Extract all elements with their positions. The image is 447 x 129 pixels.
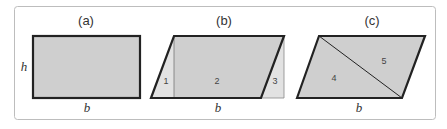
panel-a-label: (a) bbox=[78, 13, 94, 28]
height-label: h bbox=[21, 59, 28, 74]
region-1-label: 1 bbox=[163, 76, 168, 86]
panel-b-label: (b) bbox=[216, 13, 232, 28]
base-label-a: b bbox=[84, 100, 91, 115]
area-diagram: (a) h b (b) 1 2 3 b (c) 4 5 b bbox=[0, 0, 447, 129]
region-3-label: 3 bbox=[272, 76, 277, 86]
region-2-label: 2 bbox=[214, 76, 219, 86]
region-5-label: 5 bbox=[381, 56, 386, 66]
base-label-b: b bbox=[215, 100, 222, 115]
rectangle-shape bbox=[33, 36, 140, 98]
region-4-label: 4 bbox=[331, 73, 336, 83]
panel-c-label: (c) bbox=[364, 13, 379, 28]
base-label-c: b bbox=[356, 100, 363, 115]
